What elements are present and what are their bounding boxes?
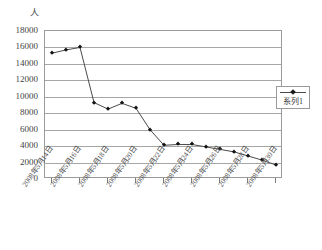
line-chart: 人 18000160001400012000100008000600040002… [0,0,322,250]
y-axis-tick-label: 6000 [20,124,38,133]
y-axis-tick-label: 10000 [16,91,39,100]
y-axis-tick-label: 4000 [20,141,38,150]
y-axis-tick-label: 16000 [16,42,39,51]
y-axis-tick-label: 18000 [16,26,39,35]
legend-marker-icon [280,89,306,96]
legend: 系列1 [276,86,310,109]
y-axis-tick-labels: 1800016000140001200010000800060004000200… [0,30,41,178]
x-axis-tick-labels: 2008年5月14日2008年5月16日2008年5月18日2008年5月20日… [0,184,322,250]
legend-entry-label: 系列1 [280,97,306,106]
y-axis-tick-label: 14000 [16,58,39,67]
x-axis-tick [275,178,276,183]
y-axis-tick-label: 12000 [16,75,39,84]
y-axis-title: 人 [30,8,39,18]
y-axis-tick-label: 8000 [20,108,38,117]
